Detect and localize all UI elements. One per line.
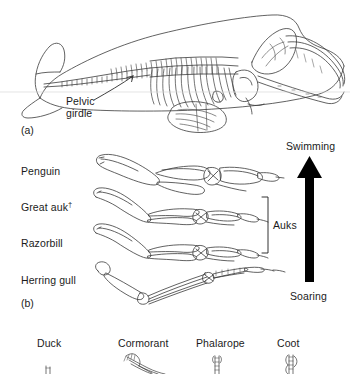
wing-row-label-great-auk: Great auk† [21, 201, 72, 213]
auks-bracket-label: Auks [273, 219, 297, 231]
panel-tag-a: (a) [21, 124, 34, 136]
pelvic-girdle-label-line1: Pelvic [66, 95, 95, 107]
wing-row-label-herring-gull: Herring gull [21, 274, 76, 286]
arrow-label-soaring: Soaring [290, 290, 327, 302]
pelvic-girdle-label-line2: girdle [66, 107, 92, 119]
razorbill-wing [94, 224, 268, 261]
panel-a-whale-skeleton: Pelvic girdle (a) [0, 0, 350, 140]
foot-label-phalarope: Phalarope [196, 337, 245, 349]
swimming-soaring-arrow [297, 156, 322, 282]
figure-container: Pelvic girdle (a) Penguin Great auk† Raz… [0, 0, 350, 374]
wing-row-label-razorbill: Razorbill [21, 237, 63, 249]
phalarope-foot [213, 356, 222, 374]
great-auk-text: Great auk [21, 201, 68, 213]
panel-c-bird-feet: Duck Cormorant Phalarope Coot [0, 312, 350, 374]
penguin-wing [96, 154, 284, 194]
herring-gull-wing [96, 262, 285, 304]
panel-tag-b: (b) [21, 297, 34, 309]
panel-b-wing-skeletons: Penguin Great auk† Razorbill Herring gul… [0, 140, 350, 312]
foot-label-cormorant: Cormorant [118, 337, 169, 349]
extinct-dagger-icon: † [68, 200, 72, 209]
cormorant-foot [124, 354, 165, 374]
duck-foot [46, 366, 50, 374]
arrow-label-swimming: Swimming [286, 140, 335, 152]
foot-label-duck: Duck [37, 337, 61, 349]
auks-bracket [262, 197, 268, 253]
wing-row-label-penguin: Penguin [21, 165, 60, 177]
great-auk-wing [94, 188, 268, 225]
coot-foot [286, 355, 297, 374]
whale-skeleton-drawing [0, 0, 350, 140]
foot-label-coot: Coot [277, 337, 300, 349]
